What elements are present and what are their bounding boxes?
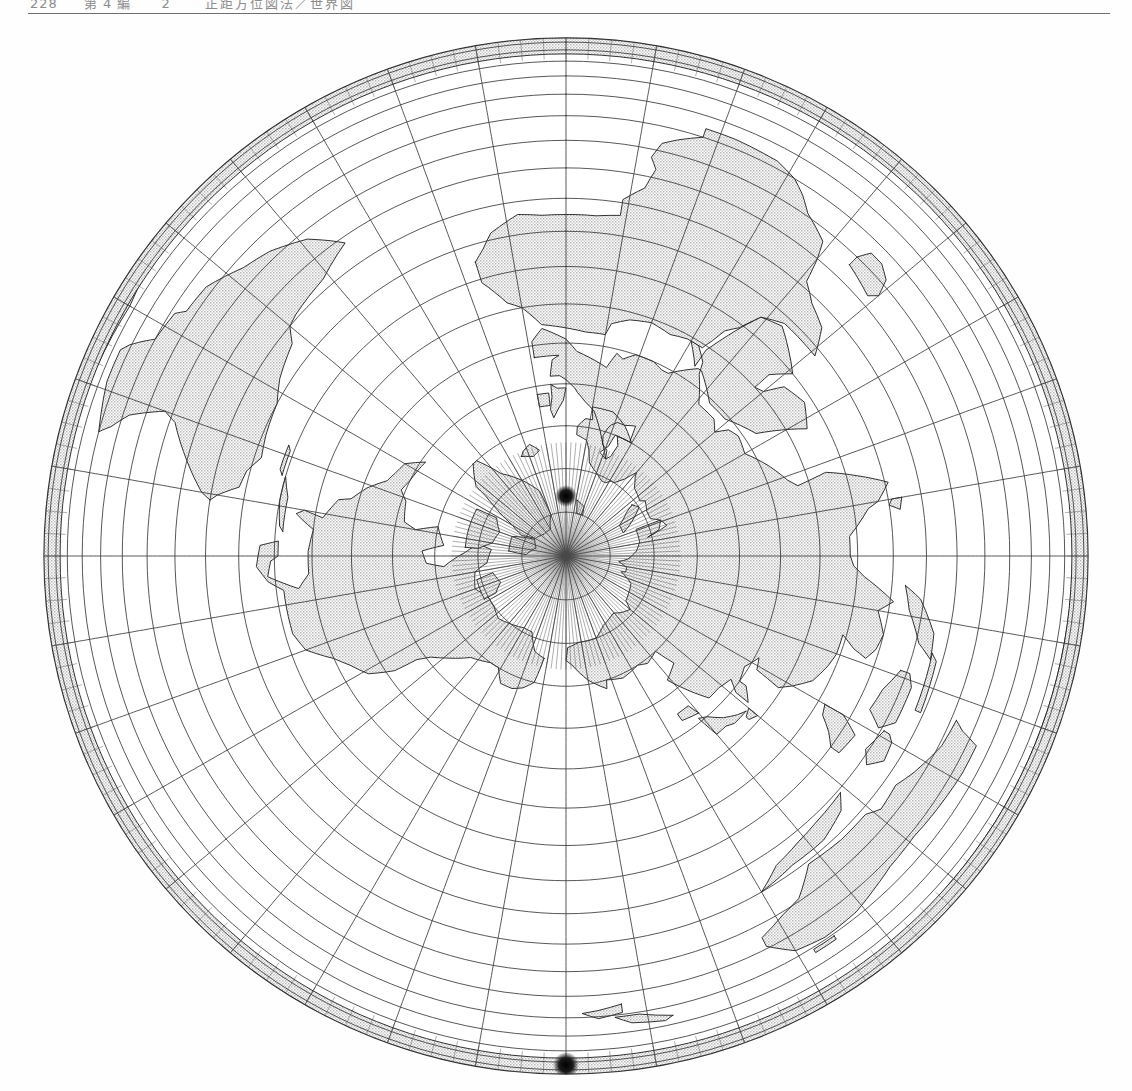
running-head-folio: 228	[30, 0, 58, 11]
running-head: 228第 4 編2正距方位図法／世界図	[0, 0, 1132, 12]
globe-body	[44, 38, 1088, 1078]
header-rule	[28, 13, 1110, 14]
map-figure	[0, 20, 1132, 1091]
graticule-layer	[44, 38, 1088, 1074]
north-pole-marker	[555, 485, 577, 507]
globe-svg	[0, 20, 1132, 1091]
running-head-title: 正距方位図法／世界図	[205, 0, 355, 11]
running-head-number: 2	[161, 0, 170, 11]
scanned-atlas-page: 228第 4 編2正距方位図法／世界図	[0, 0, 1132, 1091]
running-head-section: 第 4 編	[84, 0, 132, 11]
